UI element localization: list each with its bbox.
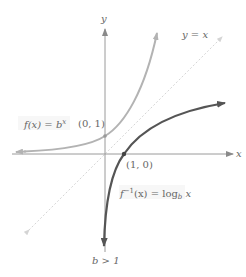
exponential-curve (16, 33, 157, 152)
y-axis-label: y (101, 14, 107, 24)
graph-canvas (0, 0, 246, 277)
x-axis-label: x (236, 149, 242, 159)
condition-label: b > 1 (92, 256, 120, 266)
identity-line (29, 37, 222, 230)
function-graph: y x y = x f(x) = bx (0, 1) (1, 0) f−1(x)… (0, 0, 246, 277)
logarithm-label: f−1(x) = logb x (120, 188, 191, 201)
logarithm-label-x: x (182, 188, 191, 199)
log-intercept-dot (122, 152, 126, 156)
identity-line-label: y = x (182, 30, 208, 40)
exp-intercept-label: (0, 1) (78, 119, 105, 129)
logarithm-curve (104, 103, 225, 246)
exponential-label-text: f(x) = b (24, 119, 62, 130)
log-intercept-label: (1, 0) (126, 160, 153, 170)
exponential-label-exponent: x (62, 118, 66, 126)
exponential-label: f(x) = bx (24, 119, 66, 130)
logarithm-label-inverse: −1 (124, 187, 134, 195)
exp-intercept-dot (103, 134, 107, 138)
logarithm-label-middle: (x) = log (134, 188, 178, 199)
